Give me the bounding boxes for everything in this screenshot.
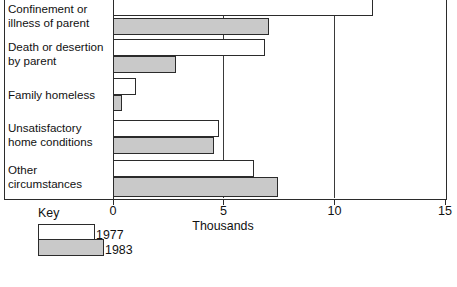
bar-1983-confinement: [113, 18, 270, 35]
legend-title: Key: [38, 206, 59, 220]
bar-1977-death-desertion: [113, 39, 265, 56]
xtick-label-10: 10: [315, 204, 355, 218]
bar-1983-unsatisfactory-home: [113, 137, 214, 154]
bar-1977-other-circumstances: [113, 160, 254, 177]
x-axis-title: Thousands: [173, 219, 273, 233]
bar-1983-death-desertion: [113, 56, 177, 73]
xtick-label-15: 15: [425, 204, 457, 218]
gridline-10: [334, 0, 335, 198]
legend-label-1983: 1983: [105, 243, 133, 257]
bar-1977-unsatisfactory-home: [113, 120, 220, 137]
category-label-confinement: Confinement or illness of parent: [8, 2, 112, 29]
category-label-other-circumstances: Other circumstances: [8, 163, 112, 190]
xtick-label-5: 5: [204, 204, 244, 218]
category-label-family-homeless: Family homeless: [8, 88, 112, 102]
bar-1983-family-homeless: [113, 95, 122, 111]
xtick-label-0: 0: [93, 204, 133, 218]
category-label-unsatisfactory-home: Unsatisfactory home conditions: [8, 121, 112, 148]
legend-swatch-1983: [38, 239, 104, 256]
bar-1977-confinement: [113, 0, 374, 16]
category-label-death-desertion: Death or desertion by parent: [8, 40, 112, 67]
legend-swatch-1977: [38, 224, 95, 240]
bar-1983-other-circumstances: [113, 177, 279, 197]
bar-1977-family-homeless: [113, 78, 137, 95]
